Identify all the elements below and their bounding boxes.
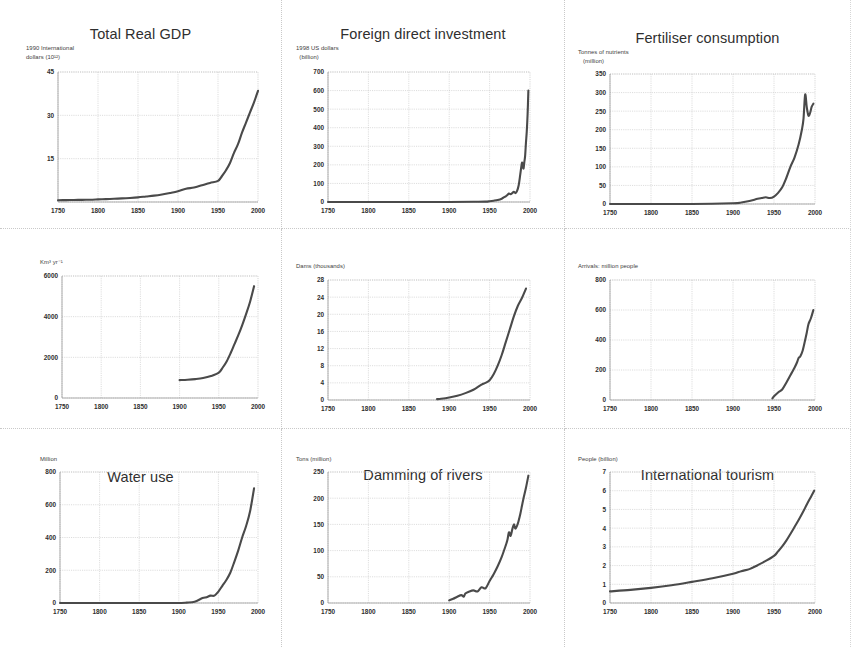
chart-panel-international-tourism: International tourismArrivals: million p… <box>565 229 851 429</box>
x-tick-label: 1800 <box>91 207 106 214</box>
x-tick-label: 1800 <box>644 405 659 412</box>
chart-plot: 0200400600800175018001850190019502000 <box>22 464 272 629</box>
y-axis-unit-label: Dams (thousands) <box>296 262 345 271</box>
x-tick-label: 1850 <box>132 608 147 615</box>
y-axis-unit-label: People (billion) <box>578 455 618 464</box>
x-tick-label: 1850 <box>402 405 417 412</box>
x-tick-label: 2000 <box>808 608 823 615</box>
x-tick-label: 1950 <box>482 207 497 214</box>
x-tick-label: 1750 <box>55 403 70 410</box>
x-tick-label: 1950 <box>767 405 782 412</box>
plot-frame <box>328 472 530 603</box>
chart-plot: 01234567175018001850190019502000 <box>572 464 830 629</box>
plot-frame <box>62 276 258 398</box>
plot-frame <box>610 472 815 603</box>
y-tick-label: 50 <box>317 573 325 580</box>
y-tick-label: 200 <box>313 495 324 502</box>
y-tick-label: 500 <box>313 106 324 113</box>
x-tick-label: 1850 <box>685 405 700 412</box>
plot-frame <box>58 72 258 202</box>
chart-plot: 0481216202428175018001850190019502000 <box>292 272 544 422</box>
x-tick-label: 1900 <box>442 405 457 412</box>
y-tick-label: 400 <box>595 336 606 343</box>
x-tick-label: 1950 <box>767 209 782 216</box>
x-tick-label: 2000 <box>251 608 266 615</box>
y-tick-label: 200 <box>595 366 606 373</box>
y-tick-label: 8 <box>320 362 324 369</box>
x-tick-label: 1850 <box>685 209 700 216</box>
y-tick-label: 2000 <box>44 354 59 361</box>
x-tick-label: 1750 <box>321 608 336 615</box>
chart-panel-population: PopulationPeople (billion)01234567175018… <box>565 429 851 647</box>
y-tick-label: 350 <box>595 70 606 77</box>
data-series-line <box>772 310 813 399</box>
x-tick-label: 1950 <box>211 608 226 615</box>
y-tick-label: 600 <box>595 306 606 313</box>
data-series-line <box>449 476 528 601</box>
y-tick-label: 0 <box>54 394 58 401</box>
chart-plot: 0200400600800175018001850190019502000 <box>572 272 830 422</box>
y-tick-label: 12 <box>317 345 325 352</box>
data-series-line <box>437 289 526 400</box>
x-tick-label: 1800 <box>361 207 376 214</box>
chart-title: Total Real GDP <box>0 26 281 42</box>
chart-panel-motor-vehicles: Motor vehiclesMillion0200400600800175018… <box>0 429 282 647</box>
x-tick-label: 1800 <box>361 405 376 412</box>
x-tick-label: 1950 <box>211 207 226 214</box>
y-tick-label: 250 <box>595 108 606 115</box>
y-tick-label: 100 <box>313 547 324 554</box>
y-tick-label: 24 <box>317 294 325 301</box>
x-tick-label: 2000 <box>523 405 538 412</box>
y-tick-label: 200 <box>45 567 56 574</box>
y-tick-label: 0 <box>320 599 324 606</box>
y-tick-label: 100 <box>313 180 324 187</box>
y-tick-label: 2 <box>602 562 606 569</box>
y-tick-label: 0 <box>52 599 56 606</box>
x-tick-label: 1750 <box>51 207 66 214</box>
x-tick-label: 1750 <box>53 608 68 615</box>
x-tick-label: 2000 <box>251 207 266 214</box>
y-tick-label: 1 <box>602 581 606 588</box>
y-axis-unit-label: 1998 US dollars (billion) <box>296 44 339 62</box>
x-tick-label: 1800 <box>644 608 659 615</box>
y-tick-label: 0 <box>602 599 606 606</box>
data-series-line <box>610 491 814 592</box>
y-tick-label: 50 <box>599 182 607 189</box>
y-tick-label: 20 <box>317 311 325 318</box>
y-tick-label: 45 <box>47 68 55 75</box>
x-tick-label: 1950 <box>767 608 782 615</box>
plot-frame <box>328 72 530 202</box>
chart-panel-damming-of-rivers: Damming of riversDams (thousands)0481216… <box>282 229 565 429</box>
x-tick-label: 1750 <box>603 608 618 615</box>
chart-title: Fertiliser consumption <box>565 30 850 46</box>
x-tick-label: 1900 <box>726 209 741 216</box>
y-tick-label: 4000 <box>44 313 59 320</box>
x-tick-label: 1950 <box>482 608 497 615</box>
y-tick-label: 4 <box>320 379 324 386</box>
y-tick-label: 150 <box>595 145 606 152</box>
x-tick-label: 1900 <box>726 608 741 615</box>
chart-panel-foreign-direct-investment: Foreign direct investment1998 US dollars… <box>282 0 565 229</box>
x-tick-label: 1800 <box>92 608 107 615</box>
data-series-line <box>60 488 254 603</box>
y-tick-label: 600 <box>313 87 324 94</box>
x-tick-label: 2000 <box>523 608 538 615</box>
y-axis-unit-label: Km³ yr⁻¹ <box>40 258 63 267</box>
chart-plot: 153045175018001850190019502000 <box>22 62 272 227</box>
y-tick-label: 16 <box>317 328 325 335</box>
x-tick-label: 1900 <box>442 207 457 214</box>
y-tick-label: 7 <box>602 468 606 475</box>
y-axis-unit-label: 1990 International dollars (10¹²) <box>26 44 74 62</box>
data-series-line <box>58 91 258 200</box>
chart-title: Foreign direct investment <box>282 26 564 42</box>
chart-panel-water-use: Water useKm³ yr⁻¹02000400060001750180018… <box>0 229 282 429</box>
data-series-line <box>180 286 254 380</box>
chart-panel-fertiliser-consumption: Fertiliser consumptionTonnes of nutrient… <box>565 0 851 229</box>
x-tick-label: 1950 <box>482 405 497 412</box>
y-axis-unit-label: Tons (million) <box>296 455 331 464</box>
y-tick-label: 30 <box>47 112 55 119</box>
y-tick-label: 6000 <box>44 272 59 279</box>
y-tick-label: 250 <box>313 468 324 475</box>
chart-panel-total-real-gdp: Total Real GDP1990 International dollars… <box>0 0 282 229</box>
chart-grid: Total Real GDP1990 International dollars… <box>0 0 851 647</box>
